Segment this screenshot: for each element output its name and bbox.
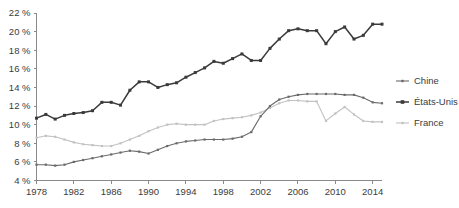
- data-point-marker: [101, 145, 103, 147]
- data-point-marker: [175, 142, 177, 144]
- data-point-marker: [110, 101, 113, 104]
- data-point-marker: [101, 155, 103, 157]
- x-tick-label: 1978: [26, 186, 47, 197]
- data-point-marker: [250, 131, 252, 133]
- y-tick-label: 12 %: [9, 100, 31, 111]
- data-point-marker: [129, 138, 131, 140]
- data-point-marker: [231, 57, 234, 60]
- series-chine: [35, 93, 383, 167]
- data-point-marker: [175, 123, 177, 125]
- data-point-marker: [316, 100, 318, 102]
- data-point-marker: [344, 94, 346, 96]
- data-point-marker: [381, 121, 383, 123]
- line-chart: 4 %6 %8 %10 %12 %14 %16 %18 %20 %22 % 19…: [0, 0, 459, 208]
- y-axis: 4 %6 %8 %10 %12 %14 %16 %18 %20 %22 %: [9, 7, 37, 186]
- legend-item-france[interactable]: France: [396, 117, 444, 128]
- legend-label: France: [414, 117, 444, 128]
- data-point-marker: [222, 138, 224, 140]
- data-point-marker: [157, 149, 159, 151]
- data-point-marker: [325, 120, 327, 122]
- data-point-marker: [63, 164, 65, 166]
- data-point-marker: [82, 111, 85, 114]
- data-point-marker: [250, 114, 252, 116]
- data-point-marker: [175, 81, 178, 84]
- data-point-marker: [147, 152, 149, 154]
- data-point-marker: [194, 139, 196, 141]
- data-point-marker: [296, 27, 299, 30]
- data-point-marker: [381, 102, 383, 104]
- data-point-marker: [381, 23, 384, 26]
- data-point-marker: [334, 112, 336, 114]
- data-point-marker: [306, 100, 308, 102]
- data-point-marker: [316, 93, 318, 95]
- data-point-marker: [334, 93, 336, 95]
- data-point-marker: [325, 93, 327, 95]
- x-tick-label: 1982: [63, 186, 84, 197]
- data-point-marker: [287, 29, 290, 32]
- data-point-marker: [166, 124, 168, 126]
- data-point-marker: [352, 38, 355, 41]
- legend-marker-swatch: [401, 100, 405, 104]
- data-point-marker: [231, 138, 233, 140]
- data-point-marker: [324, 42, 327, 45]
- x-axis-ticks: 1978198219861990199419982002200620102014: [26, 181, 383, 198]
- data-point-marker: [297, 94, 299, 96]
- legend-label: États-Unis: [414, 96, 458, 107]
- data-point-marker: [185, 140, 187, 142]
- x-tick-label: 1990: [138, 186, 159, 197]
- data-point-marker: [166, 83, 169, 86]
- y-tick-label: 14 %: [9, 82, 31, 93]
- data-point-marker: [213, 120, 215, 122]
- data-point-marker: [44, 113, 47, 116]
- data-point-marker: [278, 38, 281, 41]
- data-point-marker: [268, 47, 271, 50]
- data-point-marker: [344, 106, 346, 108]
- series-tats-unis: [35, 23, 384, 121]
- data-point-marker: [343, 25, 346, 28]
- legend-item-tats-unis[interactable]: États-Unis: [396, 96, 458, 107]
- data-point-marker: [334, 30, 337, 33]
- data-point-marker: [35, 117, 38, 120]
- y-tick-label: 22 %: [9, 7, 31, 18]
- data-point-marker: [362, 120, 364, 122]
- data-point-marker: [91, 144, 93, 146]
- data-point-marker: [147, 130, 149, 132]
- data-point-marker: [73, 141, 75, 143]
- y-tick-label: 4 %: [14, 175, 31, 186]
- y-axis-ticks: 4 %6 %8 %10 %12 %14 %16 %18 %20 %22 %: [9, 7, 37, 186]
- data-point-marker: [100, 101, 103, 104]
- data-point-marker: [231, 117, 233, 119]
- data-point-marker: [212, 60, 215, 63]
- data-point-marker: [315, 29, 318, 32]
- data-point-marker: [119, 142, 121, 144]
- data-point-marker: [260, 111, 262, 113]
- data-point-marker: [119, 104, 122, 107]
- data-point-marker: [156, 86, 159, 89]
- x-axis: 1978198219861990199419982002200620102014: [26, 181, 383, 198]
- y-tick-label: 16 %: [9, 63, 31, 74]
- data-point-marker: [250, 59, 253, 62]
- data-point-marker: [45, 135, 47, 137]
- data-point-marker: [203, 138, 205, 140]
- data-point-marker: [63, 138, 65, 140]
- data-point-marker: [203, 124, 205, 126]
- data-point-marker: [157, 126, 159, 128]
- data-point-marker: [203, 66, 206, 69]
- legend-marker-swatch: [401, 122, 403, 124]
- data-point-marker: [241, 116, 243, 118]
- data-point-marker: [372, 121, 374, 123]
- legend-item-chine[interactable]: Chine: [396, 75, 439, 86]
- x-tick-label: 2014: [362, 186, 383, 197]
- x-tick-label: 2006: [287, 186, 308, 197]
- data-point-marker: [306, 93, 308, 95]
- data-point-marker: [288, 96, 290, 98]
- series-line: [37, 24, 383, 119]
- data-point-marker: [91, 157, 93, 159]
- data-point-marker: [306, 29, 309, 32]
- data-point-marker: [119, 151, 121, 153]
- x-tick-label: 1986: [101, 186, 122, 197]
- data-point-marker: [185, 124, 187, 126]
- chart-container: 4 %6 %8 %10 %12 %14 %16 %18 %20 %22 % 19…: [0, 0, 459, 208]
- data-point-marker: [138, 135, 140, 137]
- data-point-marker: [45, 164, 47, 166]
